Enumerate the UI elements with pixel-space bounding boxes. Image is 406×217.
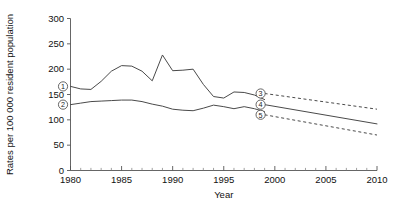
series-marker-group: 12345 [58, 82, 265, 120]
x-tick-label: 1985 [111, 174, 132, 185]
series-marker-label: 2 [61, 100, 65, 109]
series-marker-label: 1 [61, 82, 65, 91]
series-line-3 [265, 93, 377, 109]
series-line-1 [71, 55, 265, 100]
series-marker-1: 1 [58, 82, 67, 91]
x-tick-label: 1995 [213, 174, 234, 185]
y-tick-label: 200 [48, 63, 64, 74]
y-axis-ticks [67, 19, 71, 171]
series-marker-5: 5 [256, 110, 265, 119]
series-marker-3: 3 [256, 89, 265, 98]
y-tick-label: 250 [48, 38, 64, 49]
series-marker-2: 2 [58, 100, 67, 109]
x-tick-label: 2005 [315, 174, 336, 185]
x-tick-label: 2000 [264, 174, 285, 185]
series-line-4 [265, 105, 377, 124]
series-marker-label: 3 [259, 89, 263, 98]
x-axis-title: Year [214, 189, 233, 200]
x-axis-group: 1980198519901995200020052010 [60, 166, 388, 185]
x-tick-label: 2010 [366, 174, 387, 185]
x-tick-label: 1990 [162, 174, 183, 185]
series-line-5 [265, 115, 377, 135]
y-tick-label: 300 [48, 13, 64, 24]
y-tick-label: 100 [48, 114, 64, 125]
y-axis-tick-labels: 050100150200250300 [48, 13, 64, 176]
x-tick-label: 1980 [60, 174, 81, 185]
y-axis-group: 050100150200250300 [48, 13, 70, 176]
line-chart: 050100150200250300 198019851990199520002… [0, 0, 406, 217]
data-series-group [71, 55, 378, 135]
series-marker-label: 5 [259, 111, 263, 120]
x-axis-ticks [71, 166, 378, 171]
y-axis-title: Rates per 100 000 resident population [4, 14, 15, 175]
series-marker-label: 4 [259, 100, 263, 109]
y-tick-label: 50 [53, 139, 64, 150]
chart-container: 050100150200250300 198019851990199520002… [0, 0, 406, 217]
x-axis-tick-labels: 1980198519901995200020052010 [60, 174, 388, 185]
series-line-2 [71, 100, 265, 112]
series-marker-4: 4 [256, 100, 265, 109]
